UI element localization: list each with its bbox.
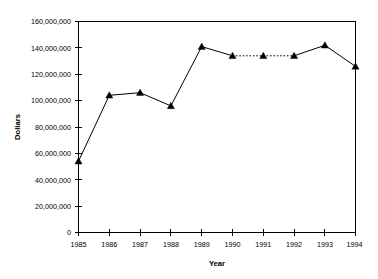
series-segment-solid-early <box>79 47 233 162</box>
y-axis-title: Dollars <box>13 114 22 140</box>
y-tick-label-0: 0 <box>67 228 71 237</box>
data-point-1993 <box>321 42 328 48</box>
data-point-1985 <box>75 158 82 164</box>
chart-canvas: 160,000,000 140,000,000 120,000,000 100,… <box>0 0 378 279</box>
x-axis-tick-labels: 1985 1986 1987 1988 1989 1990 1991 1992 … <box>71 240 363 249</box>
x-tick-label-1989: 1989 <box>194 240 210 249</box>
y-axis-tick-labels: 160,000,000 140,000,000 120,000,000 100,… <box>31 17 71 237</box>
y-tick-label-160000000: 160,000,000 <box>31 17 71 26</box>
y-tick-label-100000000: 100,000,000 <box>31 96 71 105</box>
x-tick-label-1988: 1988 <box>163 240 179 249</box>
data-point-1989 <box>198 43 205 49</box>
x-tick-label-1994: 1994 <box>347 240 363 249</box>
data-point-1994 <box>352 63 359 69</box>
y-tick-label-120000000: 120,000,000 <box>31 70 71 79</box>
y-tick-label-140000000: 140,000,000 <box>31 44 71 53</box>
line-chart: 160,000,000 140,000,000 120,000,000 100,… <box>0 0 378 279</box>
y-tick-label-20000000: 20,000,000 <box>35 202 71 211</box>
x-axis-title: Year <box>209 259 225 268</box>
x-tick-label-1987: 1987 <box>132 240 148 249</box>
x-tick-label-1993: 1993 <box>317 240 333 249</box>
y-tick-label-40000000: 40,000,000 <box>35 176 71 185</box>
data-point-1988 <box>167 102 174 108</box>
data-point-1987 <box>137 89 144 95</box>
x-tick-label-1990: 1990 <box>225 240 241 249</box>
x-tick-label-1992: 1992 <box>286 240 302 249</box>
data-series <box>75 42 359 164</box>
x-tick-label-1991: 1991 <box>255 240 271 249</box>
plot-area-border <box>79 22 356 233</box>
y-tick-label-80000000: 80,000,000 <box>35 123 71 132</box>
x-tick-label-1986: 1986 <box>101 240 117 249</box>
x-tick-label-1985: 1985 <box>71 240 87 249</box>
y-tick-label-60000000: 60,000,000 <box>35 149 71 158</box>
series-segment-solid-late <box>294 45 355 66</box>
